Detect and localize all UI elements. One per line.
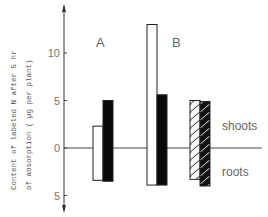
y-tick-label: 5 <box>54 95 60 107</box>
y-axis-label-line1: Content of labeled N after 5 hr <box>10 50 18 190</box>
bar-a-black <box>103 101 113 182</box>
roots-label: roots <box>222 165 249 179</box>
bar-a-white <box>93 126 103 180</box>
y-tick-label: 0 <box>54 142 60 154</box>
bar-c-hatched-dark <box>200 101 210 186</box>
y-axis-label-line2: of absorption ( µg per plant) <box>25 59 33 190</box>
bar-b-black <box>157 95 167 185</box>
group-label-a: A <box>96 35 105 50</box>
y-axis <box>62 4 66 213</box>
bar-c-hatched-light <box>190 101 200 180</box>
shoots-label: shoots <box>222 119 257 133</box>
bar-chart: 10505 ABshootsroots <box>0 0 268 217</box>
y-tick-label: 10 <box>48 47 60 59</box>
group-labels: ABshootsroots <box>96 35 257 179</box>
bars <box>93 25 210 187</box>
up-arrow-icon <box>62 4 66 12</box>
down-arrow-icon <box>62 205 66 213</box>
y-tick-label: 5 <box>54 190 60 202</box>
bar-b-white <box>147 25 157 186</box>
group-label-b: B <box>172 35 181 50</box>
